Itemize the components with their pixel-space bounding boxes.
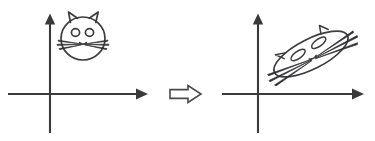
source-cat-face (57, 12, 109, 60)
target-y-axis-arrowhead (253, 14, 263, 25)
source-cat-head-outline (61, 17, 105, 60)
figure-root (0, 0, 375, 141)
transformation-figure (0, 0, 375, 141)
target-x-axis-arrowhead (352, 89, 364, 100)
source-cat-eye-left (71, 29, 79, 37)
source-y-axis-arrowhead (45, 14, 55, 25)
source-cat-eye-right (85, 29, 93, 37)
target-cat-face (257, 12, 362, 89)
target-cat-whisker-left-3 (272, 60, 315, 86)
source-cat-muzzle (80, 43, 87, 45)
transform-arrow (170, 86, 201, 103)
target-cat-eye-left (289, 47, 307, 63)
source-axes (8, 14, 148, 134)
source-cat-whiskers-right (85, 40, 110, 50)
panel-target (222, 12, 364, 133)
hollow-right-arrow-icon (170, 86, 201, 103)
target-cat-whisker-left-2 (269, 59, 312, 82)
panel-source (8, 12, 148, 133)
source-x-axis-arrowhead (136, 89, 148, 100)
source-cat-whiskers-left (57, 40, 82, 50)
